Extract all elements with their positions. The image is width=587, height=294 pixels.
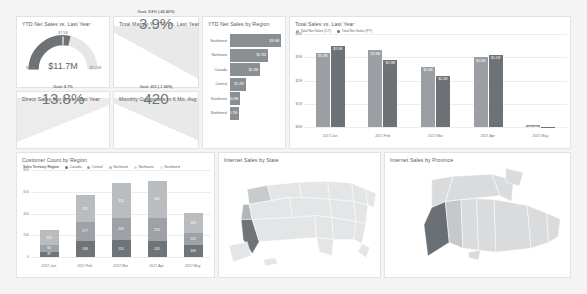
bar[interactable]: $2.2M: [436, 76, 450, 127]
state-florida: [358, 244, 370, 258]
bar[interactable]: $2.9M: [383, 60, 397, 127]
stack-segment[interactable]: 131: [40, 230, 59, 244]
bar-category-label: Northeast: [203, 53, 230, 57]
bar-category-label: Canada: [203, 68, 230, 72]
segment-value-label: 177: [82, 229, 88, 233]
legend-item[interactable]: Canada: [65, 165, 81, 169]
stack-segment[interactable]: 182: [184, 213, 203, 233]
bar-row[interactable]: Northwest$0.7M: [203, 107, 281, 120]
bar-row[interactable]: Central$1.2M: [203, 78, 281, 91]
legend-item[interactable]: Central: [87, 165, 102, 169]
canada-map-visual[interactable]: [385, 165, 570, 275]
segment-value-label: 109: [190, 249, 196, 253]
bar[interactable]: $3.3M: [368, 50, 382, 127]
legend-item[interactable]: Northeast: [109, 165, 128, 169]
stack-segment[interactable]: 112: [184, 233, 203, 245]
bar-row[interactable]: Northeast$2.9M: [203, 49, 281, 62]
bar-fill[interactable]: $2.9M: [230, 49, 268, 62]
province-south-border: [469, 250, 481, 260]
stacked-bar[interactable]: 148177241: [76, 195, 95, 257]
bar-row[interactable]: Southeast$0.8M: [203, 92, 281, 105]
card-ytd-net-sales-gauge[interactable]: YTD Net Sales vs. Last Year $0.0M $15.5M…: [16, 16, 110, 88]
bar-fill[interactable]: $1.2M: [230, 78, 246, 91]
bar-track: $0.7M: [230, 107, 281, 120]
x-axis-tick: 2017-Apr: [149, 264, 163, 268]
card-title: YTD Net Sales vs. Last Year: [17, 17, 109, 27]
stack-segment[interactable]: 148: [76, 241, 95, 257]
x-axis: 2017-Jan2017-Feb2017-Mar2017-Apr2017-May: [304, 134, 567, 138]
state-hawaii: [263, 258, 277, 266]
card-customer-count-by-region[interactable]: Customer Count by Region Sales Territory…: [16, 152, 215, 278]
bar-track: $2.3M: [230, 63, 281, 76]
card-total-margin-kpi[interactable]: Total Margin % YTD vs. Last Year 3.9% Go…: [113, 16, 199, 88]
bar-value-label: $3.1M: [489, 56, 503, 60]
bar-group: $0.1M: [526, 34, 555, 127]
card-monthly-customers-kpi[interactable]: Monthly Customers in 6 Mo. Avg 420 Goal:…: [113, 91, 199, 149]
legend-label: Northeast: [113, 165, 128, 169]
stack-segment[interactable]: 324: [112, 183, 131, 218]
bar-fill[interactable]: $0.8M: [230, 92, 240, 105]
chart-legend[interactable]: Total Net Sales (CY)Total Net Sales (PY): [290, 27, 570, 33]
bar-value-label: $3.3M: [368, 52, 382, 56]
us-map-visual[interactable]: [219, 165, 380, 275]
bar-group: 148177241: [76, 170, 95, 257]
stacked-bar[interactable]: 4766131: [40, 230, 59, 257]
stack-segment[interactable]: 155: [112, 240, 131, 257]
stack-segment[interactable]: 145: [148, 241, 167, 257]
bar-track: $0.8M: [230, 92, 281, 105]
stacked-bar[interactable]: 145214341: [148, 181, 167, 257]
bar-fill[interactable]: $2.3M: [230, 63, 260, 76]
y-axis-tick: 800: [23, 168, 29, 172]
bar-value-label: $3.2M: [316, 54, 330, 58]
stack-segment[interactable]: 214: [148, 218, 167, 241]
x-axis-tick: 2017-Mar: [428, 134, 443, 138]
stack-segment[interactable]: 66: [40, 245, 59, 252]
bar-group: $3.2M$3.5M: [316, 34, 345, 127]
bar[interactable]: $3.1M: [489, 55, 503, 127]
stack-segment[interactable]: 241: [76, 195, 95, 221]
stacked-bar[interactable]: 109112182: [184, 213, 203, 257]
card-internet-sales-by-province[interactable]: Internet Sales by Province: [384, 152, 571, 278]
bar-group: $3.0M$3.1M: [474, 34, 503, 127]
bar-row[interactable]: Southwest$3.9M: [203, 34, 281, 47]
bar[interactable]: $3.0M: [474, 57, 488, 127]
stack-segment[interactable]: 47: [40, 252, 59, 257]
card-internet-sales-by-state[interactable]: Internet Sales by State: [218, 152, 381, 278]
canada-map-svg: [385, 165, 570, 275]
legend-label: Southwest: [164, 165, 180, 169]
bar-fill[interactable]: $3.9M: [230, 34, 281, 47]
bar[interactable]: $2.6M: [421, 67, 435, 127]
legend-item[interactable]: Southwest: [160, 165, 180, 169]
bar-row[interactable]: Canada$2.3M: [203, 63, 281, 76]
bar[interactable]: $3.2M: [316, 53, 330, 127]
bar-value-label: $1.2M: [234, 82, 243, 86]
legend-item[interactable]: Total Net Sales (PY): [337, 29, 372, 33]
bar-value-label: $3.0M: [474, 59, 488, 63]
segment-value-label: 148: [82, 247, 88, 251]
x-axis-tick: 2017-Mar: [113, 264, 128, 268]
segment-value-label: 155: [118, 247, 124, 251]
kpi-value: 3.9%: [114, 15, 198, 32]
stack-segment[interactable]: 109: [184, 245, 203, 257]
kpi-value: 13.8%: [17, 90, 109, 107]
territory-nunavut-west: [445, 174, 500, 201]
state-dakotas: [300, 181, 330, 199]
bar[interactable]: $3.5M: [331, 46, 345, 127]
kpi-goal: Goal: 412 (-1.94%): [114, 85, 198, 89]
card-total-sales-vs-last-year[interactable]: Total Sales vs. Last Year Total Net Sale…: [289, 16, 571, 149]
bar-value-label: $2.2M: [436, 77, 450, 81]
stacked-bar[interactable]: 155200324: [112, 183, 131, 257]
bar-fill[interactable]: $0.7M: [230, 107, 239, 120]
segment-value-label: 131: [46, 236, 52, 240]
legend-item[interactable]: Northwest: [134, 165, 154, 169]
horizontal-bar-chart: Southwest$3.9MNortheast$2.9MCanada$2.3MC…: [203, 27, 285, 120]
stack-segment[interactable]: 200: [112, 218, 131, 240]
stack-segment[interactable]: 341: [148, 181, 167, 218]
card-ytd-net-sales-by-region[interactable]: YTD Net Sales by Region Southwest$3.9MNo…: [202, 16, 286, 149]
stack-segment[interactable]: 177: [76, 222, 95, 241]
bar[interactable]: $0.1M: [526, 125, 540, 127]
chart-legend[interactable]: Sales Territory RegionCanadaCentralNorth…: [17, 163, 214, 169]
card-direct-sales-mix-kpi[interactable]: Direct Sales Mix % vs. Last Year 13.8% G…: [16, 91, 110, 149]
legend-swatch: [160, 166, 163, 169]
chart-title: YTD Net Sales by Region: [203, 17, 285, 27]
